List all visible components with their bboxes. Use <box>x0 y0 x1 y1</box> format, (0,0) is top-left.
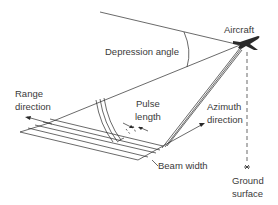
range-direction-label-line2: direction <box>15 101 51 112</box>
aircraft-icon <box>233 36 260 50</box>
range-line-3 <box>35 125 156 153</box>
azimuth-arrowhead <box>199 123 205 127</box>
beam-width-label: Beam width <box>158 160 208 171</box>
ground-surface-label-line2: surface <box>232 188 263 199</box>
horizon-line <box>100 12 240 45</box>
beam-line-1 <box>162 48 240 148</box>
ground-point-icon <box>244 165 250 169</box>
pulse-length-label-line2: length <box>135 111 161 122</box>
range-direction-label-line1: Range <box>15 88 43 99</box>
azimuth-direction-label-line2: direction <box>207 114 243 125</box>
beam-line-3 <box>167 50 242 146</box>
ground-surface-label-line1: Ground <box>232 175 264 186</box>
range-arrowhead <box>25 116 31 120</box>
pulse-length-dash <box>133 126 136 133</box>
swath-near-edge <box>20 124 46 132</box>
beam-line-2 <box>165 49 241 147</box>
azimuth-direction-label-line1: Azimuth <box>207 101 241 112</box>
range-direction-arrow <box>27 117 52 124</box>
pulse-length-label-line1: Pulse <box>136 98 160 109</box>
range-line-1 <box>20 132 138 160</box>
aircraft-label: Aircraft <box>224 24 254 35</box>
pulse-length-dash-2 <box>126 129 130 134</box>
azimuth-direction-arrow <box>163 124 203 146</box>
depression-angle-arc <box>184 32 189 67</box>
depression-angle-label: Depression angle <box>105 46 179 57</box>
swath-azimuth-edge <box>138 146 163 160</box>
